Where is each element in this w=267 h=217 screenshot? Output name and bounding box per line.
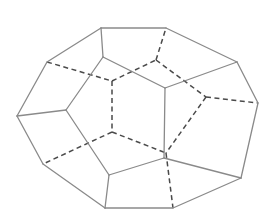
visible-edges-group	[17, 28, 258, 208]
visible-edge-O-E	[164, 158, 241, 178]
visible-edge-E-F	[173, 178, 241, 208]
hidden-edge-R-S	[156, 60, 206, 97]
visible-edge-I-M	[17, 110, 66, 116]
visible-edge-K-M	[66, 57, 103, 110]
hidden-edge-T-U	[112, 132, 166, 153]
hidden-edge-S-U	[166, 97, 206, 153]
visible-edge-B-C	[166, 28, 237, 62]
visible-edge-A-K	[101, 28, 103, 57]
hidden-edge-U-F	[166, 153, 173, 208]
visible-edge-M-N	[66, 110, 109, 175]
visible-edge-D-E	[241, 103, 258, 178]
hidden-edge-P-R	[112, 60, 156, 81]
hidden-edge-R-B	[156, 28, 166, 60]
visible-edge-G-H	[43, 164, 105, 208]
hidden-edges-group	[43, 28, 258, 208]
visible-edge-O-L	[164, 88, 165, 158]
hidden-edge-T-H	[43, 132, 112, 164]
visible-edge-H-I	[17, 116, 43, 164]
dodecahedron-diagram	[0, 0, 267, 217]
hidden-edge-S-D	[206, 97, 258, 103]
visible-edge-N-O	[109, 158, 164, 175]
visible-edge-I-J	[17, 62, 47, 116]
visible-edge-L-C	[165, 62, 237, 88]
visible-edge-J-A	[47, 28, 101, 62]
hidden-edge-J-P	[47, 62, 112, 81]
visible-edge-N-G	[105, 175, 109, 208]
visible-edge-C-D	[237, 62, 258, 103]
